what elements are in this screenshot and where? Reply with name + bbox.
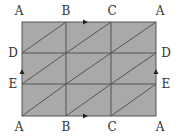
label-top-2: C: [107, 4, 116, 18]
label-bottom-3: A: [155, 120, 165, 134]
label-bottom-0: A: [14, 120, 24, 134]
label-right-0: D: [161, 46, 171, 60]
label-bottom-1: B: [62, 120, 71, 134]
label-bottom-2: C: [107, 120, 116, 134]
label-left-0: D: [8, 46, 18, 60]
label-top-0: A: [14, 4, 24, 18]
label-top-3: A: [155, 4, 165, 18]
label-top-1: B: [62, 4, 71, 18]
torus-diagram: A B C A A B C A D E D E: [0, 0, 178, 139]
label-left-1: E: [9, 77, 18, 91]
label-right-1: E: [162, 77, 171, 91]
